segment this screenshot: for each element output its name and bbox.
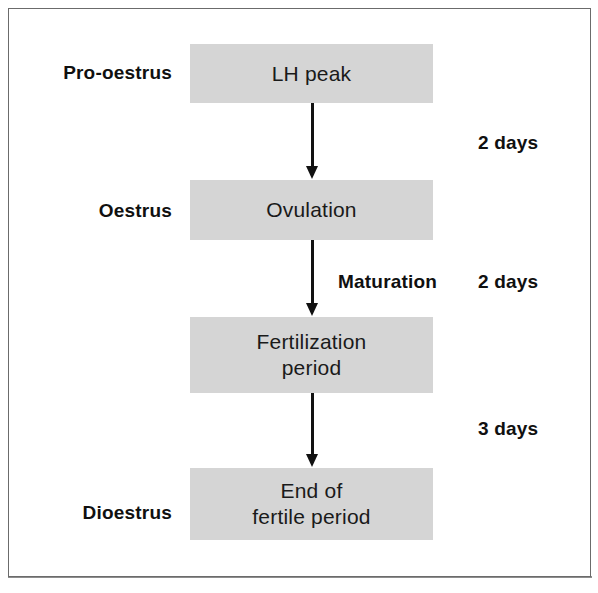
stage-box-ovulation-line1: Ovulation (266, 197, 357, 223)
arrow-head-icon (306, 303, 318, 316)
phase-label-dioestrus: Dioestrus (83, 502, 172, 524)
arrow-fertilization-to-end-fertile (305, 393, 319, 468)
arrow-head-icon (306, 166, 318, 179)
stage-box-lh-peak: LH peak (190, 44, 433, 103)
arrow-shaft (311, 103, 314, 167)
stage-box-fertilization-line2: period (257, 355, 367, 381)
stage-box-end-of-fertile-period: End of fertile period (190, 468, 433, 540)
arrow-ovulation-to-fertilization (305, 240, 319, 317)
phase-label-oestrus: Oestrus (99, 200, 172, 222)
duration-label-2: 2 days (478, 271, 538, 293)
stage-box-fertilization-line1: Fertilization (257, 329, 367, 355)
stage-box-fertilization-period: Fertilization period (190, 317, 433, 393)
flow-diagram-figure: Pro-oestrus Oestrus Dioestrus LH peak Ov… (0, 0, 598, 593)
arrow-lh-peak-to-ovulation (305, 103, 319, 180)
stage-box-end-fertile-line2: fertile period (252, 504, 370, 530)
annotation-maturation: Maturation (338, 271, 437, 293)
phase-label-pro-oestrus: Pro-oestrus (63, 62, 172, 84)
duration-label-1: 2 days (478, 132, 538, 154)
duration-label-3: 3 days (478, 418, 538, 440)
stage-box-lh-peak-line1: LH peak (272, 61, 352, 87)
arrow-shaft (311, 240, 314, 304)
arrow-head-icon (306, 454, 318, 467)
stage-box-ovulation: Ovulation (190, 180, 433, 240)
stage-box-end-fertile-line1: End of (252, 478, 370, 504)
arrow-shaft (311, 393, 314, 455)
